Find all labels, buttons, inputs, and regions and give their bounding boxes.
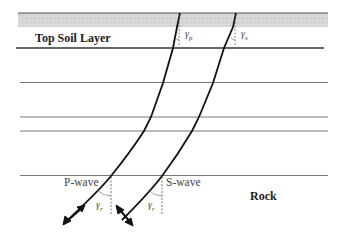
top-soil-layer-label: Top Soil Layer	[35, 31, 111, 46]
s-wave-motion-arrow-icon	[116, 205, 133, 226]
s-refraction-angle-label: γr	[148, 199, 155, 213]
rock-label: Rock	[250, 189, 277, 204]
p-refraction-angle-label: γr	[96, 199, 103, 213]
s-incident-angle-label: γs	[241, 28, 248, 42]
p-wave-label: P-wave	[64, 176, 99, 188]
p-wave-motion-arrow-icon	[63, 205, 85, 225]
s-top-angle-arc	[231, 38, 235, 40]
p-bottom-angle-arc	[97, 190, 111, 196]
p-incident-angle-label: γp	[185, 28, 192, 42]
s-wave-label: S-wave	[166, 176, 201, 188]
ground-surface-band	[18, 13, 328, 27]
